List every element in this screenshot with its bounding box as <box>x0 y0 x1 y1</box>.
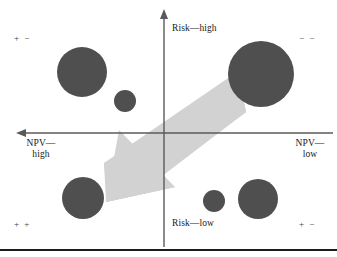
quadrant-sign-bottom-right: + − <box>299 219 316 229</box>
figure-bottom-rule <box>0 249 337 251</box>
axis-label-risk-high: Risk—high <box>172 23 217 34</box>
quadrant-sign-bottom-left: + + <box>14 219 31 229</box>
axis-left-arrowhead <box>16 129 26 137</box>
matrix-plot <box>0 0 337 257</box>
quadrant-sign-top-left: + − <box>14 33 31 43</box>
bubble-2 <box>114 90 136 112</box>
axis-label-risk-low: Risk—low <box>172 218 214 229</box>
bubble-1 <box>57 47 107 97</box>
axis-up-arrowhead <box>160 9 168 19</box>
bubble-3 <box>228 41 294 107</box>
bubble-6 <box>238 179 278 219</box>
bubble-4 <box>62 177 104 219</box>
bubble-5 <box>203 190 225 212</box>
quadrant-sign-top-right: − − <box>299 33 316 43</box>
strategic-positioning-matrix: Risk—high Risk—low NPV— high NPV— low + … <box>0 0 337 257</box>
axis-label-npv-high: NPV— high <box>14 138 68 160</box>
axis-label-npv-low: NPV— low <box>287 138 333 160</box>
